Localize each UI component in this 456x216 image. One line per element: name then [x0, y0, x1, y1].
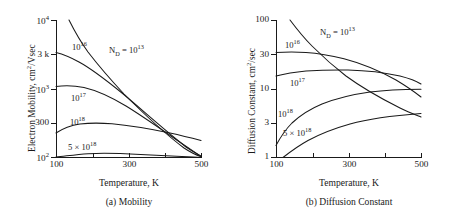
curve-label-b-1e17: 1017 — [290, 76, 305, 88]
curve-label-a-1e18: 1018 — [70, 115, 85, 127]
y-tick-label-b-100: 100 — [238, 14, 269, 24]
y-tick-label-a-1000: 103 — [16, 83, 49, 95]
curve-label-b-1e16: 1016 — [285, 38, 300, 50]
y-tick-label-a-10000: 104 — [16, 14, 49, 26]
x-tick-label-a-100: 100 — [42, 159, 71, 169]
panel-mobility: Electron Mobility, cm2/Vsec 104 3 k 103 … — [0, 0, 228, 216]
x-tick-label-a-300: 300 — [115, 159, 144, 169]
y-axis-title-diffusion: Diffusion Constant, cm2/sec — [245, 48, 257, 154]
x-axis-title-b: Temperature, K — [276, 177, 422, 188]
y-tick-label-b-10: 10 — [238, 83, 269, 93]
figure-electron-transport-plots: Electron Mobility, cm2/Vsec 104 3 k 103 … — [0, 0, 456, 216]
x-tick-label-b-500: 500 — [407, 159, 436, 169]
y-tick-label-a-300: 300 — [16, 117, 49, 127]
y-tick-label-b-3: 3 — [238, 117, 269, 127]
curve-nd-1e13-b — [290, 20, 421, 117]
panel-diffusion-constant: Diffusion Constant, cm2/sec 100 30 10 3 … — [228, 0, 456, 216]
y-axis-title-mobility: Electron Mobility, cm2/Vsec — [25, 44, 37, 152]
y-ticks-b — [271, 21, 276, 158]
x-ticks-b — [314, 153, 422, 158]
x-tick-label-a-500: 500 — [187, 159, 216, 169]
y-ticks-a — [51, 21, 56, 158]
panel-caption-a: (a) Mobility — [46, 196, 212, 207]
curve-label-a-5e18: 5 × 1018 — [68, 140, 96, 152]
curve-label-b-5e18: 5 × 1018 — [283, 126, 311, 138]
y-tick-label-a-3000: 3 k — [16, 49, 49, 59]
curve-label-b-1e18: 1018 — [278, 107, 293, 119]
x-tick-label-b-300: 300 — [335, 159, 364, 169]
x-axis-title-a: Temperature, K — [56, 177, 202, 188]
y-tick-label-b-30: 30 — [238, 49, 269, 59]
curve-label-a-1e16: 1016 — [72, 40, 87, 52]
x-tick-label-b-100: 100 — [262, 159, 291, 169]
curve-label-a-1e17: 1017 — [71, 91, 86, 103]
panel-caption-b: (b) Diffusion Constant — [256, 196, 442, 207]
curve-5e18-a — [56, 153, 201, 157]
curve-label-a-nd-1e13: ND = 1013 — [109, 43, 144, 57]
curve-label-b-nd-1e13: ND = 1013 — [320, 25, 355, 39]
